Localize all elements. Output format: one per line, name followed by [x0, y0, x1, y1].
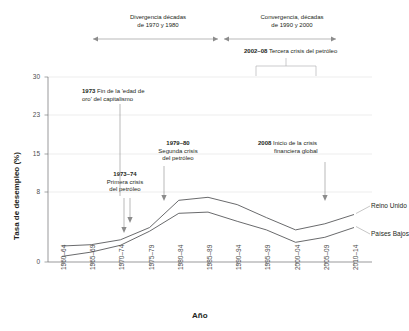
series-leader-lines — [356, 206, 370, 234]
series-line-reino-unido — [62, 197, 354, 246]
x-tick-label-2010-14: 2010–14 — [352, 245, 359, 270]
y-ticks — [45, 77, 49, 262]
pointer-segunda-crisis — [161, 166, 166, 201]
x-tick-label-1990-94: 1990–94 — [235, 245, 242, 270]
pointer-crisis-financiera — [322, 162, 327, 201]
y-tick-label-8: 8 — [22, 188, 40, 195]
y-tick-label-15: 15 — [22, 150, 40, 157]
y-tick-label-23: 23 — [22, 111, 40, 118]
x-tick-label-1985-89: 1985–89 — [206, 245, 213, 270]
y-tick-label-30: 30 — [22, 73, 40, 80]
y-tick-label-0: 0 — [22, 258, 40, 265]
x-tick-label-1970-74: 1970–74 — [118, 245, 125, 270]
y-axis-title: Tasa de desempleo (%) — [12, 152, 21, 240]
x-tick-label-2005-09: 2005–09 — [323, 245, 330, 270]
series-label-reino-unido: Reino Unido — [371, 202, 407, 209]
x-tick-label-1980-84: 1980–84 — [177, 245, 184, 270]
x-tick-label-1975-79: 1975–79 — [148, 245, 155, 270]
x-axis-title: Año — [192, 311, 208, 320]
x-tick-label-1965-69: 1965–69 — [89, 245, 96, 270]
gridlines — [48, 77, 372, 192]
pointer-primera-crisis — [121, 198, 132, 233]
series-label-paises-bajos: Países Bajos — [371, 230, 409, 237]
x-tick-label-1960-64: 1960–64 — [60, 245, 67, 270]
x-tick-label-1995-99: 1995–99 — [264, 245, 271, 270]
x-tick-label-2000-04: 2000–04 — [294, 245, 301, 270]
